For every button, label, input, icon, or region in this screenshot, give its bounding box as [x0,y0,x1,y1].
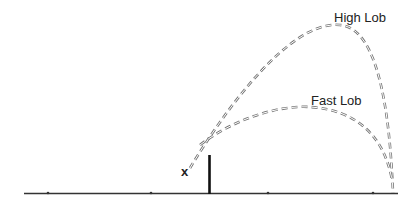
court-tick [47,192,50,195]
high-lob-trajectory [190,25,393,193]
fast-lob-trajectory [200,107,392,180]
player-position-marker: x [181,164,188,179]
court-tick [372,192,375,195]
fast-lob-label: Fast Lob [311,93,362,108]
court-tick [267,192,270,195]
high-lob-label: High Lob [334,10,386,25]
court-tick [150,192,153,195]
